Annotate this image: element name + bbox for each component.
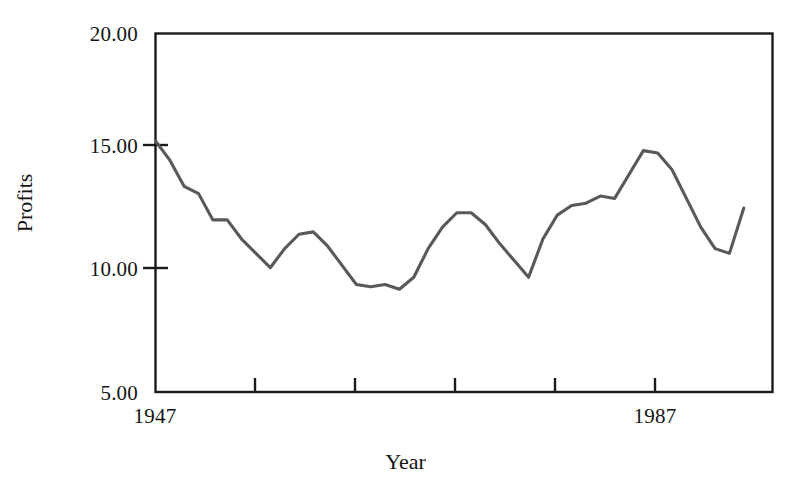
profits-line-series — [156, 141, 744, 289]
x-axis-ticks — [255, 378, 655, 392]
chart-figure: Profits Year 20.00 15.00 10.00 5.00 1947… — [0, 0, 811, 481]
plot-area — [0, 0, 811, 481]
